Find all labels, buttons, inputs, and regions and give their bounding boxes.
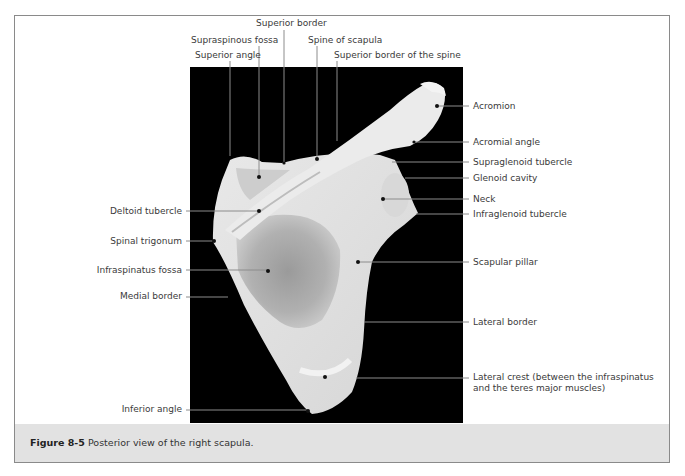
label-inferior-angle: Inferior angle (122, 404, 182, 415)
label-infraglenoid-tubercle: Infraglenoid tubercle (473, 209, 567, 220)
label-lateral-crest-line1: Lateral crest (between the infraspinatus (473, 372, 654, 383)
scapula-photo (190, 67, 463, 423)
label-glenoid-cavity: Glenoid cavity (473, 173, 537, 184)
label-superior-angle: Superior angle (195, 50, 261, 61)
label-deltoid-tubercle: Deltoid tubercle (110, 206, 182, 217)
label-neck: Neck (473, 194, 495, 205)
label-supraglenoid-tubercle: Supraglenoid tubercle (473, 157, 572, 168)
label-supraspinous-fossa: Supraspinous fossa (191, 35, 278, 46)
label-lateral-crest-line2: and the teres major muscles) (473, 383, 605, 394)
label-superior-border: Superior border (256, 18, 327, 29)
label-spine-of-scapula: Spine of scapula (308, 35, 382, 46)
label-acromial-angle: Acromial angle (473, 137, 540, 148)
label-superior-border-of-spine: Superior border of the spine (334, 50, 461, 61)
figure-caption-text: Posterior view of the right scapula. (88, 437, 254, 448)
figure-number: Figure 8-5 (30, 437, 85, 448)
label-acromion: Acromion (473, 101, 515, 112)
label-infraspinatus-fossa: Infraspinatus fossa (97, 265, 182, 276)
label-scapular-pillar: Scapular pillar (473, 257, 538, 268)
label-lateral-border: Lateral border (473, 317, 537, 328)
label-spinal-trigonum: Spinal trigonum (110, 236, 182, 247)
figure-caption: Figure 8-5 Posterior view of the right s… (30, 437, 254, 448)
label-medial-border: Medial border (120, 291, 182, 302)
